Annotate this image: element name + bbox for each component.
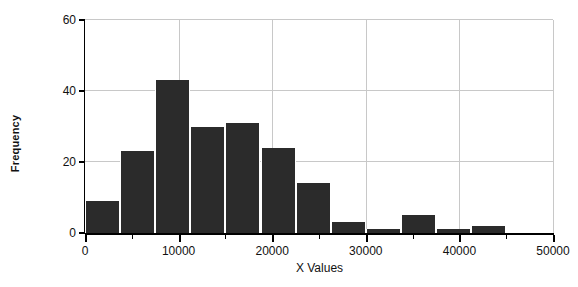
x-tick-label: 0 xyxy=(82,244,89,258)
plot-area: 0204060 xyxy=(85,20,553,233)
gridline-horizontal xyxy=(85,19,553,20)
x-tick-mark xyxy=(179,235,181,242)
histogram-bar xyxy=(296,183,331,233)
gridline-vertical xyxy=(553,20,554,233)
y-tick-label: 40 xyxy=(63,84,76,98)
histogram-bar xyxy=(190,127,225,234)
x-tick-minor-mark xyxy=(319,235,320,239)
x-tick-minor-mark xyxy=(132,235,133,239)
x-tick-minor-mark xyxy=(413,235,414,239)
histogram-bar xyxy=(85,201,120,233)
x-tick-minor-mark xyxy=(225,235,226,239)
x-tick-mark xyxy=(272,235,274,242)
histogram-bar xyxy=(261,148,296,233)
histogram-bar xyxy=(225,123,260,233)
x-tick-label: 20000 xyxy=(256,244,289,258)
x-tick-mark xyxy=(459,235,461,242)
histogram-bar xyxy=(331,222,366,233)
y-tick-mark xyxy=(79,19,85,21)
x-tick-label: 40000 xyxy=(443,244,476,258)
x-axis-title: X Values xyxy=(85,261,554,275)
y-tick-label: 60 xyxy=(63,13,76,27)
histogram-bar xyxy=(120,151,155,233)
x-tick-mark xyxy=(366,235,368,242)
gridline-vertical xyxy=(366,20,367,233)
y-tick-mark xyxy=(79,161,85,163)
x-tick-label: 50000 xyxy=(536,244,569,258)
histogram-bar xyxy=(436,229,471,233)
histogram-bar xyxy=(366,229,401,233)
gridline-vertical xyxy=(459,20,460,233)
y-tick-label: 20 xyxy=(63,155,76,169)
histogram-chart: Frequency 0204060 0100002000030000400005… xyxy=(0,0,578,287)
x-tick-label: 10000 xyxy=(162,244,195,258)
histogram-bar xyxy=(471,226,506,233)
y-axis-title: Frequency xyxy=(0,0,30,287)
histogram-bar xyxy=(155,80,190,233)
x-tick-minor-mark xyxy=(506,235,507,239)
histogram-bar xyxy=(401,215,436,233)
y-tick-label: 0 xyxy=(69,226,76,240)
y-tick-mark xyxy=(79,90,85,92)
x-tick-mark xyxy=(85,235,87,242)
x-tick-label: 30000 xyxy=(349,244,382,258)
x-tick-mark xyxy=(553,235,555,242)
